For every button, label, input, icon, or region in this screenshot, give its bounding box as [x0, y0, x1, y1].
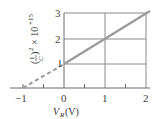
svg-text:× 10: × 10	[29, 27, 40, 45]
svg-text:(V): (V)	[65, 106, 79, 118]
svg-text:2: 2	[27, 47, 35, 51]
svg-text:1: 1	[28, 56, 36, 60]
y-axis-label: ( 1 C ) 2 × 10 +15	[27, 14, 45, 64]
measured-solid-line	[64, 11, 150, 64]
x-axis-label: V R (V)	[53, 106, 79, 119]
svg-text:+15: +15	[27, 14, 35, 25]
y-tick-1: 1	[57, 57, 63, 69]
y-tick-3: 3	[55, 7, 61, 19]
x-tick-1: 1	[102, 92, 108, 104]
x-tick-0: 0	[61, 92, 67, 104]
chart: 3 2 1 −1 0 1 2 V R (V) ( 1 C ) 2 × 10 +1…	[0, 0, 154, 119]
svg-text:): )	[29, 52, 41, 55]
svg-text:C: C	[37, 56, 45, 61]
x-tick-2: 2	[143, 92, 149, 104]
grid	[64, 13, 146, 88]
y-tick-2: 2	[55, 33, 61, 45]
x-tick-neg1: −1	[15, 92, 27, 104]
